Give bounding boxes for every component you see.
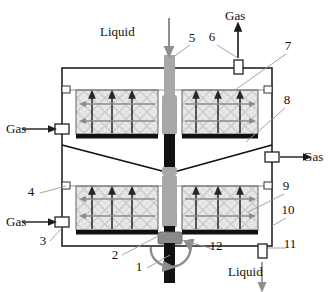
callout-3: 3 [40,233,47,248]
callout-6: 6 [209,29,216,44]
callout-7: 7 [285,38,292,53]
gas-outlet-port-right [265,152,279,162]
liquid-in-label: Liquid [100,24,135,39]
rpb-schematic: Liquid Gas Gas Gas Gas Liquid 1234567891… [0,0,332,292]
callout-9: 9 [283,178,290,193]
liquid-outlet-port [258,244,267,258]
leader-line-5 [172,45,190,58]
wall-port-lower-left [62,182,70,189]
callout-1: 1 [136,259,143,274]
lower-rotor-hub [162,175,177,228]
wall-port-upper-left [62,86,70,93]
wall-port-upper-right [264,86,272,93]
callout-4: 4 [28,184,35,199]
callout-8: 8 [284,92,291,107]
liquid-out-label: Liquid [228,264,263,279]
callout-10: 10 [282,202,295,217]
lower-gas-inlet-port [55,217,69,227]
upper-gas-inlet-port [55,124,69,134]
leader-line-10 [272,218,286,226]
callout-11: 11 [284,236,297,251]
gas-outlet-port-top [234,60,243,74]
gas-in-lower-label: Gas [6,214,26,229]
gas-in-upper-label: Gas [6,121,26,136]
leader-line-3 [50,228,62,241]
gas-out-top-label: Gas [225,8,245,23]
callout-5: 5 [189,30,196,45]
figure-canvas: Liquid Gas Gas Gas Gas Liquid 1234567891… [0,0,332,292]
leader-line-6 [217,45,238,58]
callout-2: 2 [112,247,119,262]
upper-rotor-hub [162,95,177,135]
callout-12: 12 [210,238,223,253]
gas-out-right-label: Gas [303,149,323,164]
liquid-feed-pipe [164,55,175,101]
wall-port-lower-right [264,182,272,189]
